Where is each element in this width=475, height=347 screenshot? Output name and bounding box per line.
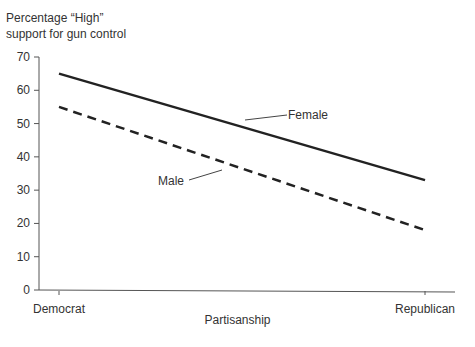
y-tick-label: 60 <box>17 83 31 97</box>
y-tick-label: 0 <box>23 283 30 297</box>
x-axis-line <box>39 290 455 292</box>
y-tick-label: 20 <box>17 216 31 230</box>
y-tick-label: 10 <box>17 250 31 264</box>
y-tick-label: 40 <box>17 150 31 164</box>
series-line-female <box>59 74 425 181</box>
male-label: Male <box>158 174 184 188</box>
y-tick-label: 50 <box>17 117 31 131</box>
y-tick-label: 70 <box>17 50 31 64</box>
male-pointer <box>189 170 222 180</box>
series-line-male <box>59 107 425 230</box>
y-tick-label: 30 <box>17 183 31 197</box>
female-pointer <box>245 115 287 120</box>
chart-plot: 010203040506070 DemocratRepublican Femal… <box>0 0 475 347</box>
x-axis-title: Partisanship <box>0 313 475 327</box>
series-lines <box>59 74 425 230</box>
y-ticks: 010203040506070 <box>17 50 39 297</box>
female-label: Female <box>288 108 328 122</box>
